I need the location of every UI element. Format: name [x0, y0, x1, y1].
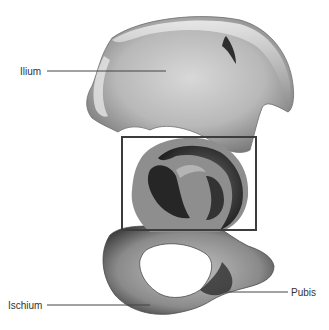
ischiopubic-bone	[103, 226, 274, 314]
ischium-label: Ischium	[8, 300, 42, 311]
pubis-label: Pubis	[291, 287, 316, 298]
ilium-label: Ilium	[20, 66, 41, 77]
ilium-bone	[87, 17, 294, 153]
hip-bone-diagram: Ilium Ischium Pubis	[0, 0, 329, 330]
acetabulum	[132, 138, 249, 232]
lower-ring	[103, 226, 274, 314]
